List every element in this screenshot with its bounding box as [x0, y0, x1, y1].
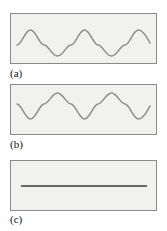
sine-wave-a-icon [11, 14, 156, 63]
panel-a-plot-area [10, 13, 157, 64]
panel-c-label: (c) [10, 214, 22, 225]
flat-line-c-icon [11, 161, 156, 210]
panel-a-label: (a) [10, 68, 22, 79]
interference-figure: (a) (b) (c) [0, 0, 167, 231]
panel-c-plot-area [10, 160, 157, 211]
panel-a [10, 13, 157, 64]
panel-b [10, 84, 157, 135]
sine-wave-b-icon [11, 85, 156, 134]
panel-b-plot-area [10, 84, 157, 135]
panel-c [10, 160, 157, 211]
panel-b-label: (b) [10, 139, 23, 150]
